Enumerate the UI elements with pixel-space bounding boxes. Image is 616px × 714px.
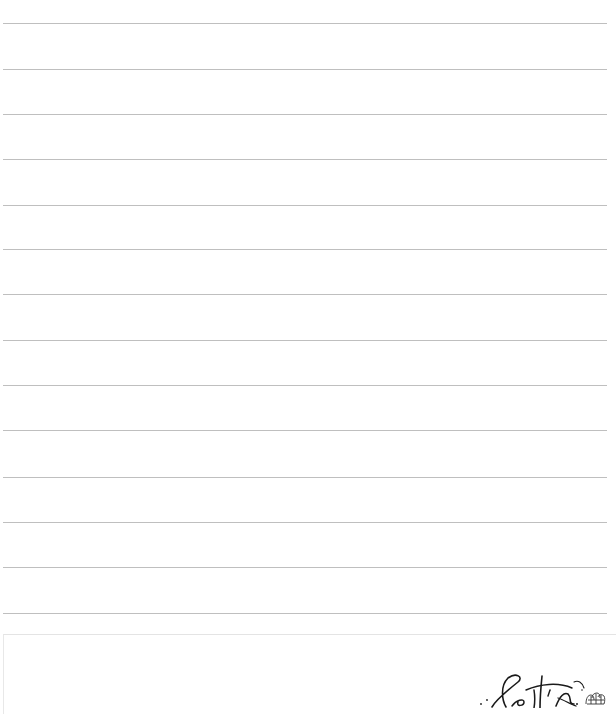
ruled-line	[3, 567, 607, 568]
ruled-line	[3, 205, 607, 206]
signature-graphic	[478, 660, 608, 708]
ruled-line	[3, 477, 607, 478]
signature-logo: Leitis	[478, 660, 608, 708]
ruled-line	[3, 69, 607, 70]
ruled-line	[3, 249, 607, 250]
crown-doodle-icon	[586, 693, 605, 704]
ruled-line	[3, 613, 607, 614]
ruled-line	[3, 522, 607, 523]
ruled-line	[3, 340, 607, 341]
ruled-line	[3, 23, 607, 24]
ruled-line	[3, 430, 607, 431]
ruled-line	[3, 385, 607, 386]
ruled-line	[3, 294, 607, 295]
ruled-line	[3, 159, 607, 160]
ruled-line	[3, 114, 607, 115]
